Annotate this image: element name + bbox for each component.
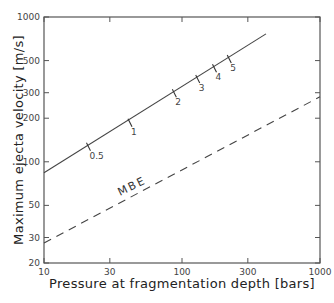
pressure-marker-label: 1 <box>131 127 137 137</box>
plot-frame <box>44 17 320 263</box>
y-axis-ticks: 2030501002003005001000 <box>17 12 320 268</box>
y-tick-label: 20 <box>29 258 41 268</box>
y-tick-label: 30 <box>29 233 41 243</box>
series-line-mbe <box>44 97 320 243</box>
y-tick-label: 1000 <box>17 12 40 22</box>
y-tick-label: 50 <box>29 200 41 210</box>
series-lines <box>44 34 320 243</box>
series-markers: 0.512345 <box>86 55 236 161</box>
pressure-marker-label: 5 <box>230 63 236 73</box>
x-axis-ticks: 10301003001000 <box>38 17 331 277</box>
mbe-series-label: MBE <box>116 174 149 199</box>
x-axis-title: Pressure at fragmentation depth [bars] <box>49 276 315 291</box>
pressure-marker-label: 2 <box>175 97 181 107</box>
chart: 10301003001000 2030501002003005001000 0.… <box>0 0 334 303</box>
plot-border <box>44 17 320 263</box>
pressure-marker-label: 0.5 <box>89 151 103 161</box>
pressure-marker-label: 4 <box>216 72 222 82</box>
y-axis-title: Maximum ejecta velocity [m/s] <box>11 35 26 245</box>
series-line-solid <box>44 34 266 173</box>
pressure-marker-label: 3 <box>199 83 205 93</box>
pressure-marker-tick <box>128 119 132 127</box>
